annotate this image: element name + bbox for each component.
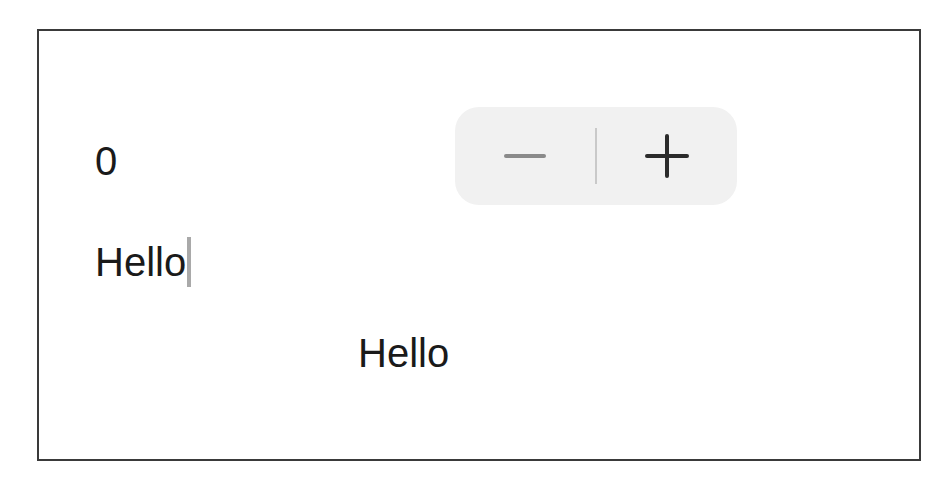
app-window-frame: 0 Hello Hello — [37, 29, 921, 461]
increment-button[interactable] — [597, 107, 737, 205]
mirrored-text-label: Hello — [39, 329, 919, 377]
plus-icon — [645, 134, 689, 178]
text-input-value: Hello — [95, 238, 186, 286]
counter-value-label: 0 — [95, 137, 117, 185]
quantity-stepper[interactable] — [455, 107, 737, 205]
minus-icon — [504, 154, 546, 158]
text-input-field[interactable]: Hello — [95, 233, 191, 291]
text-caret — [187, 237, 191, 287]
decrement-button[interactable] — [455, 107, 595, 205]
